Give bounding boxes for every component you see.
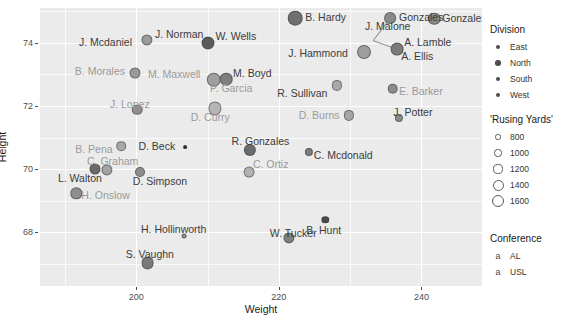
y-tick-label: 74 — [16, 38, 33, 48]
point-label: H. Onslow — [81, 190, 129, 201]
legend-item-division-key — [490, 93, 506, 97]
legend-item-conference[interactable]: aAL — [490, 248, 542, 264]
legend-item-division-key — [490, 60, 506, 65]
legend-item-size-key — [490, 164, 506, 173]
legend-item-size-key — [490, 149, 506, 156]
y-tick-mark — [35, 43, 38, 44]
y-tick-mark — [35, 169, 38, 170]
point-label: J. Lopez — [110, 99, 150, 110]
conference-glyph-icon: a — [495, 268, 500, 277]
x-tick-label: 240 — [401, 292, 441, 302]
legend-item-conference[interactable]: aUSL — [490, 264, 542, 280]
data-point[interactable] — [321, 216, 328, 223]
gridline-major-vertical — [136, 8, 137, 286]
y-tick-mark — [35, 232, 38, 233]
y-tick-label: 70 — [16, 164, 33, 174]
data-point[interactable] — [184, 145, 188, 149]
legend-item-size[interactable]: 1200 — [490, 161, 553, 177]
legend-item-size[interactable]: 1000 — [490, 145, 553, 161]
division-dot-icon — [496, 77, 501, 82]
x-tick-label: 220 — [259, 292, 299, 302]
size-ring-icon — [493, 164, 502, 173]
point-label: J. Hammond — [288, 48, 348, 59]
gridline-major-horizontal — [40, 232, 482, 233]
legend-item-size-label: 1200 — [510, 164, 529, 174]
x-tick-mark — [136, 287, 137, 290]
legend-size-title: 'Rusing Yards' — [490, 114, 553, 125]
point-label: S. Vaughn — [126, 249, 174, 260]
point-label: C. Graham — [87, 156, 138, 167]
legend-size-items: 8001000120014001600 — [490, 129, 553, 209]
point-label: D. Simpson — [133, 176, 187, 187]
legend-item-conference-key: a — [490, 252, 506, 261]
y-tick-label: 68 — [16, 227, 33, 237]
legend-item-size[interactable]: 1400 — [490, 177, 553, 193]
legend-item-division-label: East — [510, 42, 527, 52]
division-dot-icon — [496, 93, 500, 97]
data-point[interactable] — [332, 80, 342, 90]
point-label: D. Beck — [138, 141, 175, 152]
x-tick-mark — [421, 287, 422, 290]
data-point[interactable] — [71, 188, 82, 199]
division-dot-icon — [496, 45, 500, 49]
legend-item-size[interactable]: 800 — [490, 129, 553, 145]
legend-item-conference-label: USL — [510, 267, 527, 277]
legend-item-division[interactable]: North — [490, 55, 532, 71]
data-point[interactable] — [129, 67, 140, 78]
point-label: H. Hollinworth — [141, 224, 206, 235]
plot-panel: B. HardyGonzalesGonzalezJ. NormanW. Well… — [40, 8, 482, 286]
point-label: J. Mcdaniel — [79, 37, 132, 48]
legend-item-division-label: South — [510, 74, 532, 84]
legend-item-size-key — [490, 134, 506, 139]
point-label: A. Ellis — [401, 51, 433, 62]
y-axis-title: Height — [0, 117, 8, 177]
legend-item-size-key — [490, 195, 506, 208]
legend-conference-title: Conference — [490, 233, 542, 244]
point-label: C. Ortiz — [253, 159, 289, 170]
legend-item-division-key — [490, 45, 506, 49]
data-point[interactable] — [305, 148, 313, 156]
point-label: B. Pena — [75, 144, 112, 155]
legend-item-size[interactable]: 1600 — [490, 193, 553, 209]
point-label: L. Walton — [58, 173, 102, 184]
point-label: E. Barker — [399, 86, 443, 97]
size-ring-icon — [495, 134, 500, 139]
point-label: D. Burns — [299, 110, 340, 121]
data-point[interactable] — [388, 83, 399, 94]
legend-item-size-key — [490, 180, 506, 191]
point-label: P. Garcia — [210, 83, 252, 94]
point-label: W. Tucker — [270, 228, 317, 239]
point-label: J. Potter — [393, 107, 432, 118]
data-point[interactable] — [344, 110, 354, 120]
gridline-minor-vertical — [65, 8, 66, 286]
x-tick-mark — [279, 287, 280, 290]
size-ring-icon — [493, 180, 504, 191]
x-axis-title: Weight — [40, 303, 482, 315]
legend-item-division[interactable]: South — [490, 71, 532, 87]
point-label: R. Gonzales — [232, 136, 290, 147]
point-label: M. Boyd — [233, 68, 272, 79]
legend-item-size-label: 1600 — [510, 196, 529, 206]
legend-division-title: Division — [490, 24, 532, 35]
legend-item-size-label: 1400 — [510, 180, 529, 190]
legend-item-division[interactable]: West — [490, 87, 532, 103]
legend-item-size-label: 800 — [510, 132, 524, 142]
point-label: D. Curry — [191, 112, 230, 123]
gridline-major-vertical — [279, 8, 280, 286]
x-tick-label: 200 — [116, 292, 156, 302]
legend-item-division-label: West — [510, 90, 529, 100]
legend-item-conference-key: a — [490, 268, 506, 277]
point-label: A. Lamble — [404, 37, 451, 48]
legend-item-division-key — [490, 77, 506, 82]
point-label: B. Hardy — [305, 12, 346, 23]
legend-item-division[interactable]: East — [490, 39, 532, 55]
legend-item-size-label: 1000 — [510, 148, 529, 158]
point-label: R. Sullivan — [277, 88, 327, 99]
data-point[interactable] — [288, 11, 303, 26]
data-point[interactable] — [116, 142, 126, 152]
point-label: M. Maxwell — [148, 69, 201, 80]
scatter-plot-figure: B. HardyGonzalesGonzalezJ. NormanW. Well… — [0, 0, 561, 327]
conference-glyph-icon: a — [495, 252, 500, 261]
legend-division-items: EastNorthSouthWest — [490, 39, 532, 103]
data-point[interactable] — [357, 45, 371, 59]
